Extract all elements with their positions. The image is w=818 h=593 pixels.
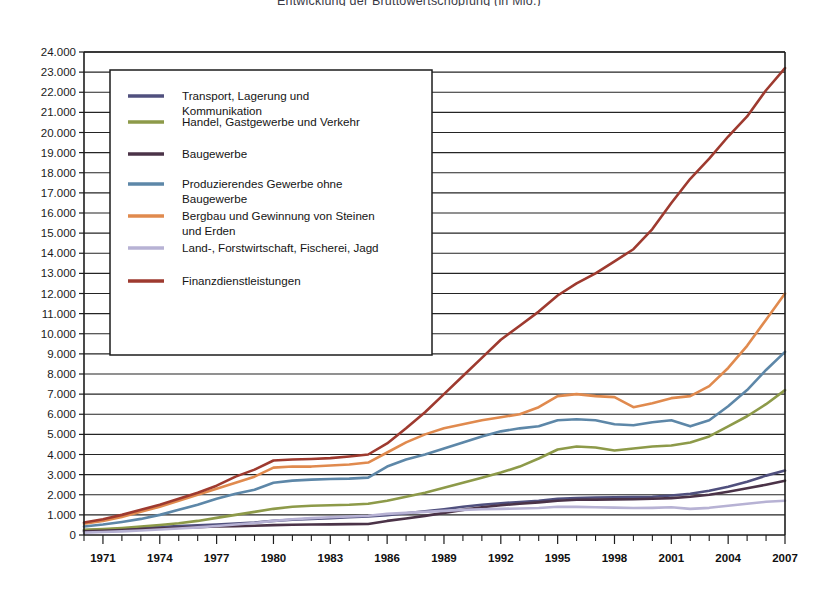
legend-item-label: und Erden — [182, 224, 236, 237]
legend-item-label: Baugewerbe — [182, 192, 247, 205]
y-axis-tick-label: 6.000 — [47, 408, 76, 420]
y-axis-tick-label: 23.000 — [41, 66, 76, 78]
y-axis-tick-label: 7.000 — [47, 388, 76, 400]
y-axis-tick-label: 20.000 — [41, 127, 76, 139]
y-axis-tick-label: 5.000 — [47, 428, 76, 440]
legend-item-label: Produzierendes Gewerbe ohne — [182, 177, 342, 190]
chart-title: Entwicklung der Bruttowertschöpfung (in … — [0, 0, 818, 6]
y-axis-tick-label: 13.000 — [41, 267, 76, 279]
series-line — [84, 501, 785, 533]
chart-container: Entwicklung der Bruttowertschöpfung (in … — [0, 0, 818, 593]
legend-item-label: Bergbau und Gewinnung von Steinen — [182, 209, 375, 222]
y-axis-tick-label: 19.000 — [41, 147, 76, 159]
y-axis-tick-label: 1.000 — [47, 509, 76, 521]
legend-item-label: Handel, Gastgewerbe und Verkehr — [182, 115, 360, 128]
chart-legend: Transport, Lagerung undKommunikationHand… — [110, 70, 432, 355]
y-axis-tick-label: 10.000 — [41, 328, 76, 340]
y-axis-tick-label: 11.000 — [42, 308, 76, 320]
legend-item-label: Land-, Forstwirtschaft, Fischerei, Jagd — [182, 241, 379, 254]
legend-item-label: Baugewerbe — [182, 147, 247, 160]
x-axis-tick-label: 1989 — [431, 552, 457, 564]
x-axis-tick-label: 1998 — [602, 552, 628, 564]
x-axis-labels: 1971197419771980198319861989199219951998… — [90, 552, 798, 564]
x-axis-tick-label: 2007 — [772, 552, 798, 564]
x-axis-tick-label: 2004 — [715, 552, 741, 564]
y-axis-tick-label: 12.000 — [41, 288, 76, 300]
y-axis-tick-label: 4.000 — [47, 449, 76, 461]
y-axis-tick-label: 16.000 — [41, 207, 76, 219]
y-axis-tick-label: 9.000 — [47, 348, 76, 360]
x-axis-tick-label: 1974 — [147, 552, 173, 564]
x-axis-tick-label: 1983 — [318, 552, 344, 564]
y-axis-tick-label: 15.000 — [41, 227, 76, 239]
y-axis-tick-label: 8.000 — [47, 368, 76, 380]
x-axis-ticks — [84, 535, 785, 544]
y-axis-tick-label: 3.000 — [47, 469, 76, 481]
legend-item-label: Finanzdienstleistungen — [182, 274, 301, 287]
y-axis-tick-label: 2.000 — [47, 489, 76, 501]
y-axis-tick-label: 21.000 — [41, 106, 76, 118]
x-axis-tick-label: 2001 — [659, 552, 685, 564]
x-axis-tick-label: 1986 — [374, 552, 400, 564]
x-axis-tick-label: 1971 — [90, 552, 116, 564]
y-axis-tick-label: 17.000 — [41, 187, 76, 199]
y-axis-tick-label: 22.000 — [41, 86, 76, 98]
x-axis-tick-label: 1980 — [261, 552, 287, 564]
x-axis-tick-label: 1977 — [204, 552, 230, 564]
x-axis-tick-label: 1995 — [545, 552, 571, 564]
x-axis-tick-label: 1992 — [488, 552, 514, 564]
legend-item-label: Transport, Lagerung und — [182, 89, 309, 102]
y-axis-tick-label: 24.000 — [41, 46, 76, 58]
series-line — [84, 352, 785, 527]
y-axis-tick-label: 14.000 — [41, 247, 76, 259]
line-chart: 01.0002.0003.0004.0005.0006.0007.0008.00… — [0, 0, 818, 593]
y-axis-tick-label: 0 — [70, 529, 76, 541]
y-axis-tick-label: 18.000 — [41, 167, 76, 179]
y-axis-labels: 01.0002.0003.0004.0005.0006.0007.0008.00… — [41, 46, 76, 541]
